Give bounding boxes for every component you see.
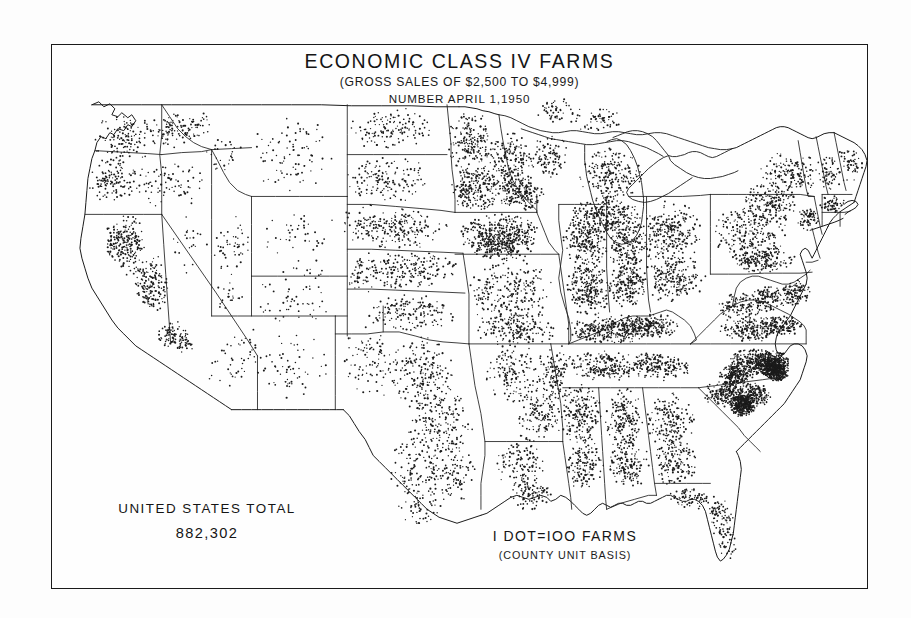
map-plate: ECONOMIC CLASS IV FARMS (GROSS SALES OF … xyxy=(0,0,911,618)
national-total-label: UNITED STATES TOTAL xyxy=(107,501,307,516)
legend: I DOT=IOO FARMS (COUNTY UNIT BASIS) xyxy=(450,528,680,561)
legend-basis-note: (COUNTY UNIT BASIS) xyxy=(450,549,680,561)
legend-dot-value: I DOT=IOO FARMS xyxy=(450,528,680,544)
dot-density-layer xyxy=(89,98,863,559)
map-frame: ECONOMIC CLASS IV FARMS (GROSS SALES OF … xyxy=(51,44,868,589)
national-total-block: UNITED STATES TOTAL 882,302 xyxy=(107,501,307,541)
national-outline xyxy=(80,102,867,561)
national-total-value: 882,302 xyxy=(107,525,307,541)
